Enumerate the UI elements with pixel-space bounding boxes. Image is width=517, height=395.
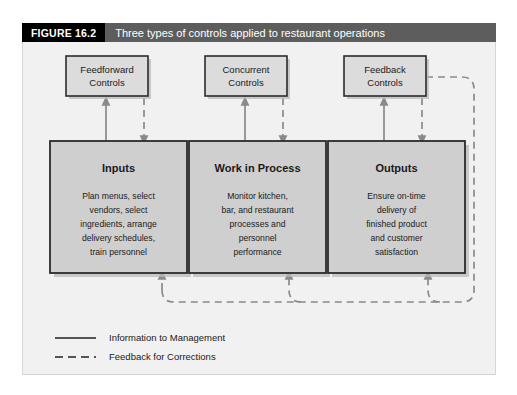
stage-title: Work in Process xyxy=(215,162,301,174)
stage-body-line: performance xyxy=(233,247,281,257)
stage-body-line: ingredients, arrange xyxy=(80,219,157,229)
legend: Information to Management Feedback for C… xyxy=(55,332,226,362)
stage-body-line: personnel xyxy=(239,233,277,243)
stage-title: Inputs xyxy=(102,162,135,174)
stage-box-inputs[interactable]: Inputs Plan menus, select vendors, selec… xyxy=(50,141,191,277)
control-label-line2: Controls xyxy=(367,77,403,88)
figure-number-badge: FIGURE 16.2 xyxy=(22,23,105,42)
control-box-feedback[interactable]: Feedback Controls xyxy=(344,56,429,99)
stage-body-line: processes and xyxy=(230,219,286,229)
stage-body-line: Monitor kitchen, xyxy=(227,191,288,201)
connector-group-information xyxy=(106,101,384,142)
legend-label: Feedback for Corrections xyxy=(109,351,216,362)
stage-body-line: delivery schedules, xyxy=(82,233,155,243)
stage-body-line: Ensure on-time xyxy=(367,191,425,201)
control-box-concurrent[interactable]: Concurrent Controls xyxy=(205,56,290,99)
stage-box-outputs[interactable]: Outputs Ensure on-time delivery of finis… xyxy=(328,141,469,277)
stage-body-line: satisfaction xyxy=(375,247,418,257)
stage-body-line: and customer xyxy=(370,233,422,243)
legend-label: Information to Management xyxy=(109,332,226,343)
stage-body-line: vendors, select xyxy=(90,205,148,215)
figure-root: FIGURE 16.2 Three types of controls appl… xyxy=(0,0,517,395)
diagram-canvas: Feedforward Controls Concurrent Controls… xyxy=(22,42,496,375)
legend-item-feedback-for-corrections: Feedback for Corrections xyxy=(55,351,216,362)
feedback-bus-branch-wip xyxy=(289,275,301,302)
legend-item-information-to-management: Information to Management xyxy=(55,332,226,343)
stage-body-line: finished product xyxy=(366,219,427,229)
control-label-line1: Concurrent xyxy=(223,64,270,75)
stage-body-line: Plan menus, select xyxy=(82,191,155,201)
stage-body-line: delivery of xyxy=(377,205,417,215)
feedback-bus-branch-outputs xyxy=(428,275,440,302)
control-label-line2: Controls xyxy=(228,77,264,88)
stage-box-work-in-process[interactable]: Work in Process Monitor kitchen, bar, an… xyxy=(189,141,330,277)
figure-title: Three types of controls applied to resta… xyxy=(105,23,496,42)
control-label-line1: Feedforward xyxy=(80,64,133,75)
connector-group-corrections-down xyxy=(144,98,422,140)
control-label-line2: Controls xyxy=(89,77,125,88)
control-box-feedforward[interactable]: Feedforward Controls xyxy=(66,56,151,99)
stage-body-line: train personnel xyxy=(90,247,147,257)
stage-title: Outputs xyxy=(375,162,417,174)
figure-header: FIGURE 16.2 Three types of controls appl… xyxy=(22,23,496,42)
stage-body-line: bar, and restaurant xyxy=(221,205,294,215)
control-label-line1: Feedback xyxy=(364,64,406,75)
